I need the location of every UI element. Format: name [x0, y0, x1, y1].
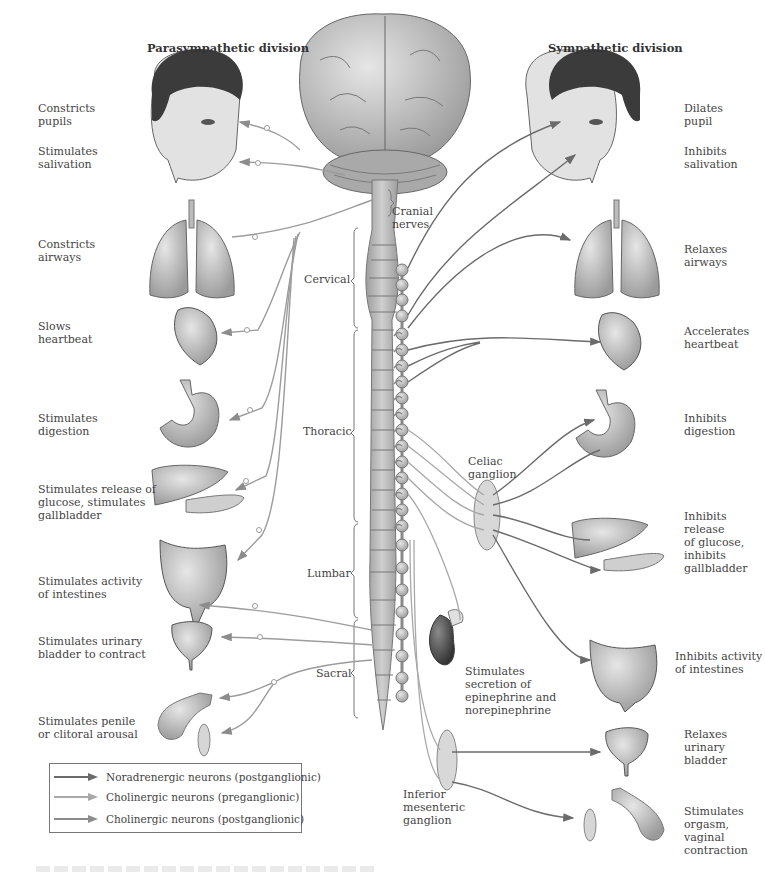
genitals-left	[158, 693, 212, 756]
sympathetic-heading: Sympathetic division	[548, 41, 683, 55]
inferior-mesenteric-ganglion-label: Inferior mesenteric ganglion	[403, 788, 465, 827]
legend-item-noradrenergic: Noradrenergic neurons (postganglionic)	[50, 770, 321, 784]
para-label-digestion: Stimulates digestion	[38, 412, 98, 438]
symp-label-glucose: Inhibits release of glucose, inhibits ga…	[684, 510, 748, 575]
region-thoracic: Thoracic	[303, 425, 352, 438]
bladder-right	[606, 728, 648, 776]
adrenal-kidney	[430, 610, 463, 665]
celiac-ganglion-label: Celiac ganglion	[468, 455, 516, 481]
legend-label: Noradrenergic neurons (postganglionic)	[106, 771, 321, 783]
symp-label-heartbeat: Accelerates heartbeat	[684, 325, 749, 351]
figure-caption-illegible	[36, 866, 376, 872]
symp-label-intestines: Inhibits activity of intestines	[675, 650, 762, 676]
symp-label-salivation: Inhibits salivation	[684, 145, 738, 171]
lungs-right	[575, 200, 659, 298]
legend-item-cholinergic-post: Cholinergic neurons (postganglionic)	[50, 812, 304, 826]
region-lumbar: Lumbar	[307, 567, 351, 580]
symp-label-digestion: Inhibits digestion	[684, 412, 735, 438]
light-arrow-icon	[54, 792, 98, 802]
para-label-heartbeat: Slows heartbeat	[38, 320, 92, 346]
para-label-pupils: Constricts pupils	[38, 102, 95, 128]
para-label-salivation: Stimulates salivation	[38, 145, 98, 171]
para-label-intestines: Stimulates activity of intestines	[38, 575, 142, 601]
para-label-genitals: Stimulates penile or clitoral arousal	[38, 715, 138, 741]
heart-right	[598, 313, 640, 370]
genitals-right	[584, 788, 664, 841]
sympathetic-preganglionic	[408, 430, 484, 780]
brain	[299, 14, 470, 194]
nervous-system-diagram	[0, 0, 765, 879]
region-sacral: Sacral	[316, 667, 352, 680]
region-cranial: Cranial nerves	[392, 205, 433, 231]
intestines-left	[160, 540, 227, 630]
dark-arrow-icon	[54, 772, 98, 782]
symp-label-genitals: Stimulates orgasm, vaginal contraction	[684, 805, 748, 857]
bladder-left	[172, 622, 212, 670]
symp-label-airways: Relaxes airways	[684, 243, 727, 269]
legend-label: Cholinergic neurons (preganglionic)	[106, 791, 299, 803]
parasympathetic-synapses	[244, 126, 277, 685]
symp-label-pupil: Dilates pupil	[684, 102, 723, 128]
sympathetic-chain	[394, 264, 408, 702]
symp-label-bladder: Relaxes urinary bladder	[684, 728, 727, 767]
liver-pancreas-left	[152, 465, 244, 513]
region-cervical: Cervical	[304, 273, 350, 286]
medium-arrow-icon	[54, 814, 98, 824]
parasympathetic-heading: Parasympathetic division	[147, 41, 309, 55]
inferior-mesenteric-ganglion	[437, 730, 457, 790]
symp-label-adrenal: Stimulates secretion of epinephrine and …	[465, 665, 556, 717]
lungs-left	[150, 200, 234, 298]
para-label-bladder: Stimulates urinary bladder to contract	[38, 635, 146, 661]
intestines-right	[590, 640, 657, 712]
spinal-cord	[366, 180, 399, 730]
para-label-glucose: Stimulates release of glucose, stimulate…	[38, 483, 156, 522]
heart-left	[174, 308, 216, 365]
legend-label: Cholinergic neurons (postganglionic)	[106, 813, 304, 825]
para-label-airways: Constricts airways	[38, 238, 95, 264]
face-right	[526, 49, 641, 183]
legend: Noradrenergic neurons (postganglionic) C…	[49, 763, 302, 833]
legend-item-cholinergic-pre: Cholinergic neurons (preganglionic)	[50, 790, 299, 804]
liver-pancreas-right	[572, 518, 664, 571]
face-left	[151, 49, 243, 183]
stomach-left	[160, 380, 219, 447]
